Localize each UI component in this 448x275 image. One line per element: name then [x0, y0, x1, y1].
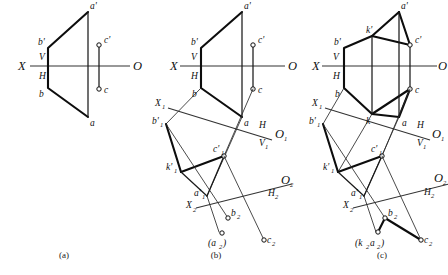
- panel-c-label-a1-prime-sub: 1: [359, 193, 362, 200]
- panel-b-point-c-prime: [251, 43, 255, 47]
- panel-c-label-c-prime: c': [415, 35, 422, 45]
- panel-a-triangle-outline: [48, 12, 88, 117]
- panel-a-point-c-prime: [97, 43, 101, 47]
- panel-b-aux2-x: X: [185, 200, 193, 210]
- panel-a-o-label: O: [133, 59, 142, 73]
- panel-c-label-k1-prime-group: k' 1: [323, 162, 334, 174]
- panel-b-aux2-o: O: [281, 173, 290, 187]
- panel-b-label-k1-prime: k': [166, 162, 173, 172]
- panel-c-aux2-o: O: [434, 171, 443, 185]
- panel-c-aux1-o-sub: 1: [441, 135, 444, 142]
- panel-c-label-b-prime: b': [334, 37, 342, 47]
- panel-c-label-b1-prime-sub: 1: [317, 121, 320, 128]
- panel-c-projector-b-b1: [323, 88, 344, 124]
- panel-c-aux2-x-sub: 2: [350, 206, 354, 213]
- panel-c-point-c-prime: [408, 43, 412, 47]
- panel-b-aux1-o-sub: 1: [284, 135, 287, 142]
- panel-c-x-label: X: [311, 59, 321, 73]
- panel-c-label-c1-prime-sub: 1: [379, 149, 382, 156]
- panel-c-aux2-o-label-group: O 2: [434, 171, 447, 186]
- panel-b-x-label: X: [169, 59, 179, 73]
- panel-b-label-a2: (a: [208, 238, 216, 249]
- panel-b-label-b2-group: b 2: [231, 208, 241, 220]
- panel-c-label-k-prime: k': [366, 25, 373, 35]
- panel-b-aux2-h-label-group: H 2: [267, 188, 279, 200]
- panel-c-point-c2: [419, 238, 423, 242]
- panel-c-label-b: b: [335, 89, 340, 99]
- panel-c-label-c: c: [415, 85, 420, 95]
- panel-c-label-b1-prime-group: b' 1: [309, 116, 320, 128]
- panel-b-label-c1-prime: c': [213, 144, 220, 154]
- panel-b-label-c1-prime-group: c' 1: [213, 144, 224, 156]
- panel-a-v-label: V: [39, 52, 46, 62]
- panel-c-caption: (c): [377, 250, 387, 260]
- panel-a: X O V H a' b' c' b c a (a): [17, 1, 142, 260]
- panel-b-aux1-x-sub: 1: [162, 103, 165, 110]
- panel-b-aux1-o-label-group: O 1: [275, 127, 287, 142]
- panel-b-projector-c1-c2: [224, 156, 264, 240]
- panel-b-label-a1-prime-sub: 1: [202, 193, 205, 200]
- panel-c-edge-ac-prime: [399, 12, 410, 45]
- panel-c-label-k2a2-suffix: ): [380, 238, 384, 249]
- panel-c-label-a1-prime-group: a' 1: [351, 188, 362, 200]
- panel-b-label-a-prime: a': [244, 1, 252, 11]
- panel-b-caption: (b): [211, 250, 222, 260]
- panel-b-label-b1-prime-sub: 1: [160, 121, 163, 128]
- panel-b-label-b: b: [192, 89, 197, 99]
- panel-b-aux2-h-sub: 2: [275, 193, 279, 200]
- panel-b-aux1-o: O: [275, 127, 284, 141]
- panel-b-point-b2: [226, 216, 230, 220]
- panel-b-label-k1-prime-sub: 1: [174, 167, 177, 174]
- panel-c-aux2-h-label-group: H 2: [423, 187, 435, 199]
- panel-c-edge-kc-prime: [372, 36, 410, 45]
- panel-c-label-b2: b: [388, 208, 393, 218]
- panel-c-point-k2a2: [376, 230, 380, 234]
- panel-c: X O V H X 1 O 1 H V 1 X 2 O 2 H 2 a' k': [309, 1, 448, 260]
- panel-b-aux2-o-label-group: O 2: [281, 173, 294, 188]
- panel-c-aux2-h-sub: 2: [431, 192, 435, 199]
- panel-b-o-label: O: [288, 59, 297, 73]
- panel-c-aux1-o: O: [432, 127, 441, 141]
- panel-a-caption: (a): [59, 250, 69, 260]
- panel-b-label-b2-sub: 2: [237, 213, 241, 220]
- panel-b-label-b1-prime: b': [152, 116, 160, 126]
- descriptive-geometry-figure: X O V H a' b' c' b c a (a): [0, 0, 448, 275]
- panel-b-label-b2: b: [231, 208, 236, 218]
- panel-b-triangle-outline: [201, 12, 242, 117]
- panel-b-aux1-v-sub: 1: [265, 143, 268, 150]
- panel-b-aux1-h: H: [258, 120, 267, 130]
- panel-a-label-c-prime: c': [104, 35, 111, 45]
- panel-a-label-a-prime: a': [90, 1, 98, 11]
- panel-c-label-c1-prime-group: c' 1: [371, 144, 382, 156]
- panel-a-label-b-prime: b': [38, 37, 46, 47]
- panel-b-aux2-x-sub: 2: [193, 206, 197, 213]
- panel-a-point-c: [97, 87, 101, 91]
- panel-c-aux1-h: H: [416, 120, 425, 130]
- panel-b-label-c: c: [258, 85, 263, 95]
- panel-c-label-k2a2: (k: [355, 238, 363, 249]
- panel-b: X O V H X 1 O 1 H V 1 X 2 O 2 H 2: [152, 1, 297, 260]
- panel-b-h-label: H: [190, 71, 199, 81]
- panel-c-label-k1-prime: k': [323, 162, 330, 172]
- panel-b-v-label: V: [191, 52, 198, 62]
- panel-a-label-c: c: [104, 85, 109, 95]
- panel-c-aux1-x-label-group: X 1: [311, 98, 322, 110]
- panel-b-label-k1-prime-group: k' 1: [166, 162, 177, 174]
- panel-c-label-k2a2-second: a: [370, 238, 375, 248]
- panel-b-label-a: a: [244, 118, 249, 128]
- panel-c-label-c2-sub: 2: [429, 240, 433, 247]
- panel-b-aux2-x-label-group: X 2: [185, 200, 197, 213]
- panel-a-h-label: H: [38, 71, 47, 81]
- panel-c-aux1-v-sub: 1: [423, 143, 426, 150]
- panel-c-label-a: a: [402, 118, 407, 128]
- panel-c-o-label: O: [438, 59, 447, 73]
- panel-b-label-c-prime: c': [258, 35, 265, 45]
- panel-b-point-a2: [220, 231, 224, 235]
- panel-c-aux1-reference-line: [325, 108, 430, 140]
- panel-c-aux1-o-label-group: O 1: [432, 127, 444, 142]
- panel-b-point-c2: [262, 238, 266, 242]
- panel-c-label-a-prime: a': [401, 1, 409, 11]
- panel-b-label-c1-prime-sub: 1: [221, 149, 224, 156]
- panel-b-aux1-reference-line: [168, 108, 272, 140]
- panel-c-label-c2-group: c 2: [424, 235, 433, 247]
